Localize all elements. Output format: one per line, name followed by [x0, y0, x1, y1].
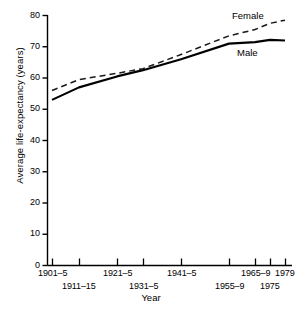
- y-tick-label: 50: [18, 103, 40, 113]
- y-tick-label: 40: [18, 135, 40, 145]
- y-tick-label: 80: [18, 10, 40, 20]
- x-tick-label: 1931–5: [129, 281, 158, 291]
- series-label-female: Female: [232, 10, 264, 21]
- y-tick-label: 30: [18, 166, 40, 176]
- y-axis-ticks: [43, 16, 48, 266]
- data-series-group: [52, 20, 285, 100]
- y-tick-label: 20: [18, 197, 40, 207]
- y-tick-label: 10: [18, 228, 40, 238]
- x-tick-label: 1975: [260, 281, 280, 291]
- x-tick-label: 1955–9: [215, 281, 244, 291]
- x-tick-label: 1921–5: [103, 268, 132, 278]
- x-tick-label: 1979: [275, 268, 295, 278]
- series-label-male: Male: [237, 47, 258, 58]
- y-tick-label: 70: [18, 41, 40, 51]
- y-tick-label: 0: [18, 260, 40, 270]
- x-tick-label: 1901–5: [38, 268, 67, 278]
- y-tick-label: 60: [18, 72, 40, 82]
- figure-container: Average life-expectancy (years) Year 010…: [0, 0, 302, 315]
- x-tick-label: 1965–9: [241, 268, 270, 278]
- x-tick-label: 1941–5: [167, 268, 196, 278]
- x-axis-ticks: [53, 259, 286, 266]
- x-axis-title: Year: [0, 292, 302, 303]
- x-tick-label: 1911–15: [62, 281, 96, 291]
